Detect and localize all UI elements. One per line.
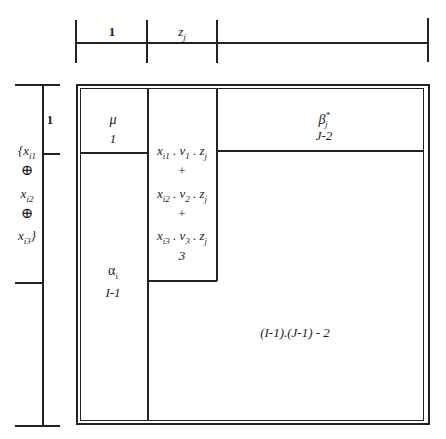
left-ruler-line — [42, 85, 44, 426]
subscript: i — [115, 271, 118, 281]
left-ruler-tick — [15, 282, 43, 284]
subscript: i3 — [24, 236, 31, 246]
column-divider-1 — [147, 88, 149, 421]
z-symbol: . z — [190, 186, 205, 201]
top-ruler-tick — [146, 20, 148, 63]
top-label-1: 1 — [100, 24, 124, 39]
mu-row-divider — [80, 152, 147, 154]
z-symbol: . z — [190, 228, 205, 243]
subscript: j — [205, 151, 208, 161]
oplus-symbol: ⊕ — [14, 206, 40, 221]
alpha-symbol: αi — [100, 263, 126, 284]
interaction-bottom — [147, 280, 217, 282]
left-label-x3: xi3} — [14, 228, 40, 249]
left-ruler-tick — [15, 425, 60, 427]
mu-symbol: μ — [100, 112, 126, 127]
left-ruler-tick — [42, 153, 60, 155]
plus-sign: + — [150, 206, 214, 221]
j-subscript: j — [183, 32, 186, 42]
subscript: i2 — [26, 194, 33, 204]
interaction-column-right — [216, 88, 218, 281]
subscript: i2 — [163, 194, 170, 204]
plus-sign: + — [150, 163, 214, 178]
top-ruler-tick — [75, 20, 77, 63]
top-ruler-tick — [216, 20, 218, 63]
subscript: j — [205, 194, 208, 204]
nu-symbol: . ν — [170, 228, 186, 243]
top-ruler-line — [76, 42, 429, 44]
mu-df: 1 — [100, 131, 126, 146]
nu-symbol: . ν — [170, 186, 186, 201]
subscript: i1 — [163, 151, 170, 161]
residual-df: (I-1).(J-1) - 2 — [240, 325, 350, 340]
x-symbol: {x — [18, 143, 29, 158]
left-label-1: 1 — [44, 112, 56, 127]
left-label-x1: {xi1 — [14, 143, 40, 164]
alpha-df: I-1 — [96, 285, 130, 300]
left-ruler-tick — [15, 84, 60, 86]
top-label-z: zj — [170, 24, 194, 45]
matrix-inner-border — [80, 88, 424, 421]
left-label-x2: xi2 — [14, 186, 40, 207]
interaction-term-1: xi1 . ν1 . zj — [150, 143, 214, 164]
subscript: i1 — [29, 151, 36, 161]
top-ruler-tick — [427, 18, 429, 62]
subscript: i3 — [163, 236, 170, 246]
nu-symbol: . ν — [170, 143, 186, 158]
brace: } — [31, 228, 36, 243]
beta-df: J-2 — [304, 128, 344, 143]
beta-row-divider — [216, 150, 424, 152]
z-symbol: . z — [190, 143, 205, 158]
subscript: j — [205, 236, 208, 246]
interaction-df: 3 — [150, 248, 214, 263]
interaction-term-3: xi3 . ν3 . zj — [150, 228, 214, 249]
oplus-symbol: ⊕ — [14, 163, 40, 178]
interaction-term-2: xi2 . ν2 . zj — [150, 186, 214, 207]
